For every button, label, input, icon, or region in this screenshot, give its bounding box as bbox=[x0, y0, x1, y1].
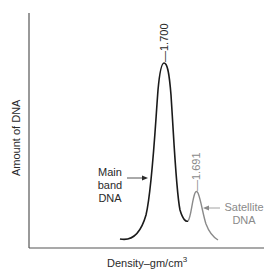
satellite-curve bbox=[188, 192, 218, 241]
satellite-arrowhead-icon bbox=[203, 206, 209, 211]
x-axis-label-text: Density–gm/cm bbox=[107, 257, 183, 269]
main-band-label: Main band DNA bbox=[93, 166, 127, 205]
peak-label-main: —1.700 bbox=[158, 23, 170, 62]
main-band-label-line1: Main bbox=[93, 166, 127, 179]
main-band-label-line3: DNA bbox=[93, 192, 127, 205]
main-band-label-line2: band bbox=[93, 179, 127, 192]
chart-canvas bbox=[0, 0, 276, 280]
x-axis-label-superscript: 3 bbox=[183, 255, 187, 264]
satellite-label-line2: DNA bbox=[221, 214, 267, 227]
main-band-arrowhead-icon bbox=[142, 176, 148, 181]
satellite-label-line1: Satellite bbox=[221, 201, 267, 214]
x-axis-label: Density–gm/cm3 bbox=[107, 255, 187, 269]
main-band-curve bbox=[120, 63, 188, 239]
y-axis-label: Amount of DNA bbox=[10, 100, 22, 176]
peak-label-satellite: —1.691 bbox=[190, 152, 202, 191]
satellite-label: Satellite DNA bbox=[221, 201, 267, 227]
